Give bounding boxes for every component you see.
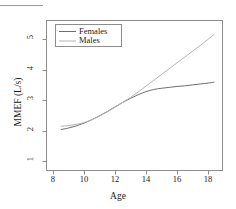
x-tick-label: 10 (74, 174, 94, 184)
y-tick-label: 2 (25, 122, 35, 136)
y-tick-label: 1 (25, 152, 35, 166)
axis-ticks (43, 40, 209, 175)
series-line-males (61, 34, 215, 126)
x-tick-label: 16 (167, 174, 187, 184)
data-series-group (61, 34, 215, 129)
legend-label-females: Females (79, 26, 107, 36)
y-axis-title: MMEF (L/s) (13, 62, 23, 142)
x-tick-label: 18 (198, 174, 218, 184)
line-chart: MMEF (L/s) Age 81012141618 12345 Females… (0, 0, 236, 209)
y-tick-label: 4 (25, 61, 35, 75)
figure-container: MMEF (L/s) Age 81012141618 12345 Females… (0, 0, 236, 209)
x-tick-label: 12 (105, 174, 125, 184)
legend-label-males: Males (79, 35, 100, 45)
x-tick-label: 14 (136, 174, 156, 184)
x-axis-title: Age (0, 191, 236, 201)
x-tick-label: 8 (43, 174, 63, 184)
y-tick-label: 3 (25, 91, 35, 105)
y-tick-label: 5 (25, 30, 35, 44)
